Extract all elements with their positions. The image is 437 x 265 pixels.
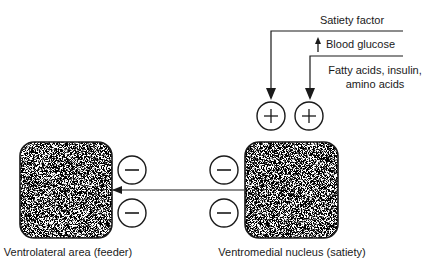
diagram-canvas: Satiety factor Blood glucose Fatty acids… [0,0,437,265]
ventromedial-nucleus-node [245,142,338,238]
plus-sign-nutrients [295,102,323,130]
nutrients-label-line2: amino acids [346,78,405,90]
satiety-factor-label: Satiety factor [320,14,385,26]
minus-sign-vmn-bottom [210,199,238,227]
ventromedial-nucleus-label: Ventromedial nucleus (satiety) [218,246,365,258]
satiety-arrowhead-icon [266,88,276,100]
minus-sign-vmn-top [210,156,238,184]
ventrolateral-area-label: Ventrolateral area (feeder) [4,246,132,258]
stipple-fill [20,142,112,238]
nutrients-line [310,56,403,98]
plus-sign-satiety [257,102,285,130]
minus-sign-vla-bottom [118,199,146,227]
ventrolateral-area-node [20,142,112,238]
increase-arrow-icon [315,37,321,52]
nutrients-arrowhead-icon [305,88,315,100]
minus-sign-vla-top [118,156,146,184]
blood-glucose-label: Blood glucose [326,38,395,50]
nutrients-label-line1: Fatty acids, insulin, [328,64,422,76]
stipple-fill [245,142,338,238]
